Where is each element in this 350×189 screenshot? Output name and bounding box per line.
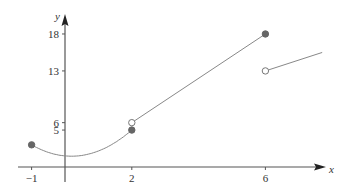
open-point-marker (262, 68, 268, 74)
y-tick-label: 18 (48, 28, 60, 40)
x-tick-label: 2 (129, 172, 135, 184)
axes: xy−126561318 (18, 10, 334, 184)
series-path (32, 130, 132, 156)
plot-series (32, 34, 323, 156)
open-point-marker (129, 119, 135, 125)
y-axis-label: y (54, 10, 60, 22)
filled-point-marker (262, 31, 268, 37)
filled-point-marker (28, 142, 34, 148)
x-tick-label: −1 (26, 172, 38, 184)
x-tick-label: 6 (263, 172, 269, 184)
y-tick-label: 13 (48, 65, 60, 77)
filled-point-marker (129, 127, 135, 133)
series-path (132, 34, 266, 123)
series-path (265, 52, 322, 70)
x-axis-label: x (328, 163, 334, 175)
y-tick-label: 6 (54, 117, 60, 129)
piecewise-function-graph: xy−126561318 (0, 0, 350, 189)
